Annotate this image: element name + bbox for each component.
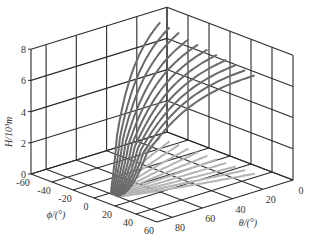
z-axis-label: H/10³m [3,117,14,148]
theta-tick-label: 20 [266,194,276,205]
tick-labels: 02468-60-40-200204060020406080 [16,44,303,236]
chart-3d-trajectories: 02468-60-40-200204060020406080 H/10³m ϕ/… [0,0,310,243]
z-tick-label: 8 [21,44,26,55]
theta-tick-label: 80 [175,222,185,233]
phi-tick-label: 20 [102,209,112,220]
phi-tick-label: 0 [84,201,89,212]
theta-tick-label: 40 [236,204,246,215]
z-tick-label: 6 [21,75,26,86]
back-wall-gridline [31,70,167,112]
phi-tick-label: -60 [16,177,29,188]
z-tick-label: 2 [21,138,26,149]
z-tick-label: 4 [21,107,26,118]
phi-tick-label: 60 [144,225,154,236]
phi-axis-label: ϕ/(°) [47,209,66,221]
theta-tick-label: 0 [299,185,304,196]
phi-tick-label: -20 [58,193,71,204]
chart-canvas: 02468-60-40-200204060020406080 H/10³m ϕ/… [0,0,310,243]
phi-tick-label: 40 [123,217,133,228]
theta-tick-label: 60 [205,213,215,224]
theta-axis-label: θ/(°) [239,217,258,229]
phi-tick-label: -40 [37,185,50,196]
